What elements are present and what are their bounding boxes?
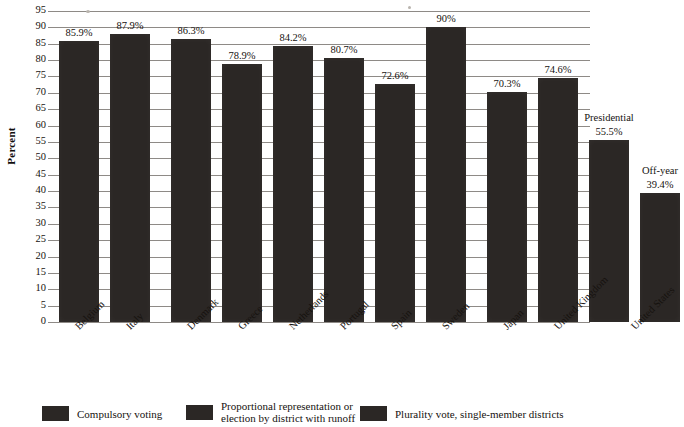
x-axis-labels: BelgiumItalyDenmarkGreeceNetherlandsPort… <box>57 324 590 394</box>
bar <box>171 39 211 322</box>
y-tick-label: 15 <box>20 267 46 277</box>
bar-value-label: 55.5% <box>577 126 641 137</box>
plot-area: 85.9%87.9%86.3%78.9%84.2%80.7%72.6%90%70… <box>57 11 590 322</box>
y-tick-mark <box>48 109 57 110</box>
y-tick-label: 95 <box>20 5 46 15</box>
bar-value-label: 70.3% <box>475 78 539 89</box>
y-tick-mark <box>48 126 57 127</box>
bar <box>375 84 415 322</box>
bar <box>110 34 150 322</box>
legend-label: Proportional representation or election … <box>221 400 355 424</box>
chart-legend: Compulsory votingProportional representa… <box>0 398 598 427</box>
bar-annotation: Off-year <box>615 165 684 176</box>
y-tick-mark <box>48 44 57 45</box>
y-tick-mark <box>48 60 57 61</box>
bars-layer: 85.9%87.9%86.3%78.9%84.2%80.7%72.6%90%70… <box>57 11 590 322</box>
y-tick-label: 5 <box>20 300 46 310</box>
bar-value-label: 74.6% <box>526 64 590 75</box>
y-tick-label: 50 <box>20 152 46 162</box>
legend-swatch <box>186 405 213 420</box>
y-tick-mark <box>48 207 57 208</box>
y-axis-title: Percent <box>5 116 17 176</box>
bar-value-label: 84.2% <box>261 32 325 43</box>
y-tick-mark <box>48 273 57 274</box>
y-tick-label: 0 <box>20 316 46 326</box>
y-tick-label: 45 <box>20 169 46 179</box>
scan-speck <box>86 10 90 13</box>
bar-value-label: 78.9% <box>210 50 274 61</box>
y-tick-label: 10 <box>20 283 46 293</box>
bar-value-label: 72.6% <box>363 70 427 81</box>
bar-value-label: 87.9% <box>98 20 162 31</box>
y-tick-label: 60 <box>20 120 46 130</box>
y-tick-label: 30 <box>20 218 46 228</box>
legend-swatch <box>360 406 387 421</box>
y-tick-mark <box>48 93 57 94</box>
bar <box>273 46 313 322</box>
y-tick-label: 75 <box>20 70 46 80</box>
bar <box>222 64 262 322</box>
legend-item: Compulsory voting <box>42 406 162 421</box>
y-tick-mark <box>48 257 57 258</box>
y-tick-mark <box>48 306 57 307</box>
legend-label: Compulsory voting <box>77 408 162 420</box>
y-tick-mark <box>48 76 57 77</box>
bar <box>487 92 527 322</box>
y-tick-label: 25 <box>20 234 46 244</box>
y-tick-mark <box>48 322 57 323</box>
bar-annotation: Presidential <box>564 112 654 123</box>
y-tick-mark <box>48 158 57 159</box>
legend-label: Plurality vote, single-member districts <box>395 408 564 420</box>
y-tick-label: 35 <box>20 201 46 211</box>
y-tick-label: 70 <box>20 87 46 97</box>
y-tick-label: 55 <box>20 136 46 146</box>
y-tick-mark <box>48 142 57 143</box>
scan-speck <box>408 6 411 9</box>
bar <box>59 41 99 322</box>
y-tick-mark <box>48 175 57 176</box>
y-tick-label: 40 <box>20 185 46 195</box>
bar-value-label: 90% <box>414 13 478 24</box>
legend-item: Proportional representation or election … <box>186 400 355 424</box>
y-tick-mark <box>48 224 57 225</box>
y-tick-label: 20 <box>20 251 46 261</box>
bar-value-label: 80.7% <box>312 44 376 55</box>
y-tick-mark <box>48 11 57 12</box>
bar-value-label: 86.3% <box>159 25 223 36</box>
y-tick-label: 65 <box>20 103 46 113</box>
bar <box>324 58 364 322</box>
legend-item: Plurality vote, single-member districts <box>360 406 564 421</box>
bar <box>426 27 466 322</box>
y-tick-label: 85 <box>20 38 46 48</box>
y-tick-mark <box>48 191 57 192</box>
y-tick-mark <box>48 240 57 241</box>
y-tick-mark <box>48 289 57 290</box>
y-tick-label: 80 <box>20 54 46 64</box>
legend-swatch <box>42 406 69 421</box>
y-tick-label: 90 <box>20 21 46 31</box>
bar-value-label: 39.4% <box>628 179 684 190</box>
